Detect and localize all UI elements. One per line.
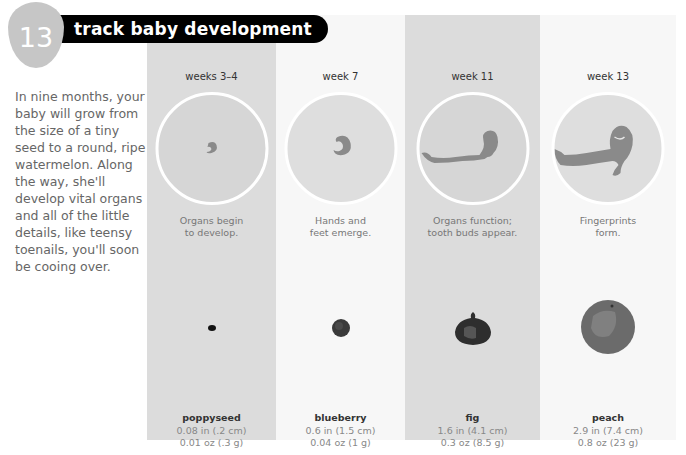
poppyseed-icon	[206, 323, 218, 333]
section-number-badge: 13	[8, 2, 64, 68]
weight-measure: 0.01 oz (.3 g)	[147, 437, 276, 448]
fetus-with-cord-icon	[419, 95, 526, 202]
blueberry-icon	[330, 317, 352, 339]
week-label: week 13	[540, 71, 676, 82]
weight-measure: 0.8 oz (23 g)	[540, 437, 676, 448]
title-bar: track baby development	[44, 15, 328, 43]
stage-description: Organs begin to develop.	[147, 215, 276, 239]
fetus-large-icon	[555, 95, 662, 202]
fruit-image	[276, 313, 405, 343]
stage-description: Fingerprints form.	[540, 215, 676, 239]
embryo-small-icon	[287, 95, 394, 202]
fruit-name: fig	[405, 412, 540, 423]
embryo-tiny-icon	[158, 95, 265, 202]
stage-description: Organs function; tooth buds appear.	[405, 215, 540, 239]
intro-paragraph: In nine months, your baby will grow from…	[15, 88, 150, 275]
peach-icon	[579, 298, 637, 356]
embryo-circle	[552, 92, 665, 205]
weight-measure: 0.04 oz (1 g)	[276, 437, 405, 448]
stage-column-week-7: week 7 Hands and feet emerge. blueberry …	[276, 15, 405, 440]
week-label: week 11	[405, 71, 540, 82]
embryo-circle	[416, 92, 529, 205]
stage-column-weeks-3-4: weeks 3–4 Organs begin to develop. poppy…	[147, 15, 276, 440]
fig-icon	[452, 308, 494, 348]
week-label: week 7	[276, 71, 405, 82]
embryo-circle	[155, 92, 268, 205]
embryo-circle	[284, 92, 397, 205]
length-measure: 0.6 in (1.5 cm)	[276, 425, 405, 436]
fruit-image	[147, 313, 276, 343]
fruit-name: blueberry	[276, 412, 405, 423]
fruit-name: peach	[540, 412, 676, 423]
stage-column-week-13: week 13 Fingerprints form. peach 2.9 in …	[540, 15, 676, 440]
fruit-name: poppyseed	[147, 412, 276, 423]
stage-description: Hands and feet emerge.	[276, 215, 405, 239]
weight-measure: 0.3 oz (8.5 g)	[405, 437, 540, 448]
week-label: weeks 3–4	[147, 71, 276, 82]
stage-column-week-11: week 11 Organs function; tooth buds appe…	[405, 15, 540, 440]
length-measure: 1.6 in (4.1 cm)	[405, 425, 540, 436]
page-title: track baby development	[74, 19, 312, 39]
section-number: 13	[19, 22, 53, 53]
fruit-image	[540, 297, 676, 357]
length-measure: 0.08 in (.2 cm)	[147, 425, 276, 436]
length-measure: 2.9 in (7.4 cm)	[540, 425, 676, 436]
fruit-image	[405, 313, 540, 343]
